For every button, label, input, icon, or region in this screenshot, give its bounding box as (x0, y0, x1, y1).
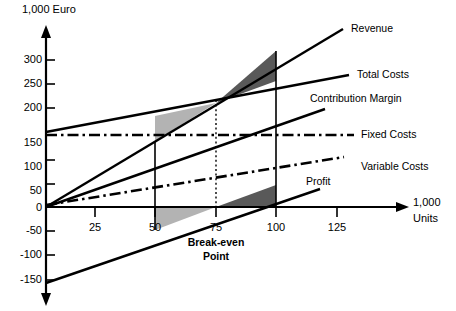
series-label-contribution-margin: Contribution Margin (310, 93, 402, 104)
y-tick-label-minus-150: -150 (0, 274, 42, 285)
break-even-chart: 1,000 Euro 1,000 Units 300 250 200 150 1… (0, 0, 456, 311)
x-tick-label-25: 25 (75, 222, 115, 233)
x-axis-title-line2: Units (413, 213, 438, 224)
break-even-label-line1: Break-even (176, 237, 256, 248)
profit-area-lower (216, 185, 276, 207)
y-tick-label-150: 150 (0, 137, 42, 148)
x-tick-label-75: 75 (196, 222, 236, 233)
y-tick-label-200: 200 (0, 102, 42, 113)
x-tick-label-50: 50 (135, 222, 175, 233)
x-tick-label-125: 125 (317, 222, 357, 233)
series-label-revenue: Revenue (351, 23, 393, 34)
x-tick-marks (95, 207, 337, 217)
series-line-profit (46, 189, 320, 283)
series-label-variable-costs: Variable Costs (361, 161, 429, 172)
series-label-total-costs: Total Costs (357, 69, 409, 80)
x-axis-arrow (396, 202, 409, 212)
y-tick-label-50: 50 (0, 185, 42, 196)
series-label-fixed-costs: Fixed Costs (361, 129, 416, 140)
y-tick-label-300: 300 (0, 54, 42, 65)
x-tick-label-100: 100 (256, 222, 296, 233)
y-tick-label-minus-100: -100 (0, 249, 42, 260)
y-tick-label-0: 0 (0, 202, 42, 213)
chart-canvas (0, 0, 456, 311)
series-line-total-costs (46, 75, 349, 132)
y-axis-title: 1,000 Euro (22, 4, 76, 15)
y-tick-label-250: 250 (0, 78, 42, 89)
y-tick-label-minus-50: -50 (0, 225, 42, 236)
y-tick-marks (46, 60, 55, 280)
y-axis-arrow-up (41, 25, 51, 38)
y-tick-label-100: 100 (0, 161, 42, 172)
series-label-profit: Profit (306, 176, 331, 187)
x-axis-title-line1: 1,000 (413, 197, 441, 208)
y-axis-arrow-down (41, 293, 51, 306)
break-even-label-line2: Point (176, 251, 256, 262)
